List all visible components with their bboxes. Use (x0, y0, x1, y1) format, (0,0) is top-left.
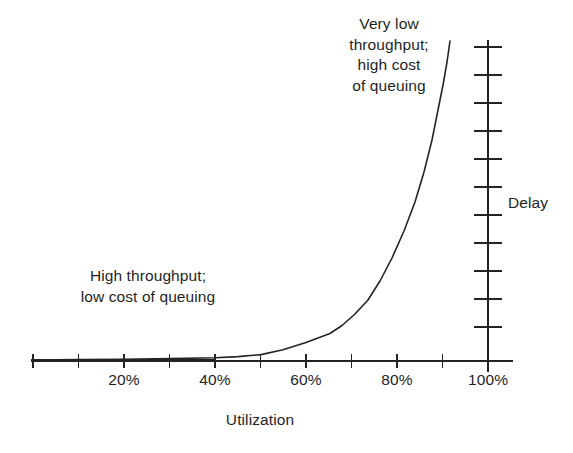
annotation-very-low-throughput: Very low throughput; high cost of queuin… (349, 14, 429, 96)
x-tick-label-20: 20% (108, 371, 139, 389)
annotation-high-throughput: High throughput; low cost of queuing (81, 266, 216, 307)
x-tick-label-60: 60% (290, 371, 321, 389)
x-tick-label-80: 80% (381, 371, 412, 389)
y-axis-title: Delay (508, 194, 548, 212)
x-axis-title: Utilization (226, 411, 294, 429)
x-tick-label-100: 100% (468, 371, 508, 389)
delay-vs-utilization-chart: 20% 40% 60% 80% 100% Utilization Delay H… (0, 0, 573, 453)
x-tick-label-40: 40% (199, 371, 230, 389)
